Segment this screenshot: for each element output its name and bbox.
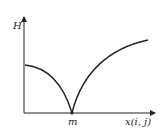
x-axis-label: x(i, j) — [125, 116, 151, 127]
curve-left-branch — [25, 65, 72, 113]
minimum-point-label: m — [68, 116, 77, 127]
y-axis-label: H — [12, 20, 22, 31]
diagram-canvas: H m x(i, j) — [0, 0, 167, 132]
minimum-point — [70, 111, 73, 114]
curve-right-branch — [72, 40, 148, 113]
